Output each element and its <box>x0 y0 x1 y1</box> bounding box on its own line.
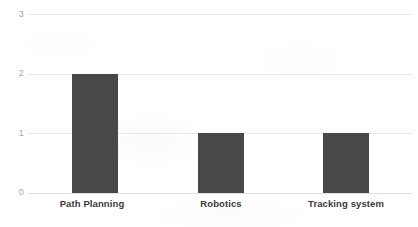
bar-path-planning[interactable] <box>72 74 118 193</box>
y-axis: 3 2 1 0 <box>0 14 24 193</box>
y-tick-label-2: 2 <box>2 69 24 78</box>
x-category-label-tracking-system: Tracking system <box>276 198 416 210</box>
plot-area <box>28 14 412 193</box>
bar-robotics[interactable] <box>198 133 244 193</box>
y-tick-label-0: 0 <box>2 188 24 197</box>
x-category-label-path-planning: Path Planning <box>22 198 162 210</box>
gridline-0-baseline <box>28 193 412 194</box>
y-tick-label-3: 3 <box>2 10 24 19</box>
gridline-3 <box>28 14 412 15</box>
x-category-label-robotics: Robotics <box>151 198 291 210</box>
y-tick-label-1: 1 <box>2 129 24 138</box>
bar-chart: 3 2 1 0 Path Planning Robotics Tracking … <box>0 0 418 227</box>
bar-tracking-system[interactable] <box>323 133 369 193</box>
